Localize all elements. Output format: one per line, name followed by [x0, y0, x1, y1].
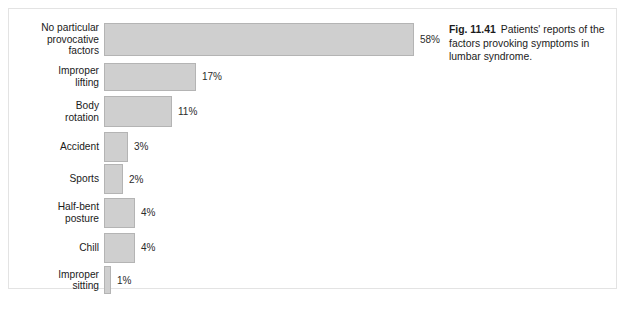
bar-row-plot: 3%: [104, 132, 439, 162]
bar-row-label: Improper lifting: [9, 65, 104, 88]
bar-value-label: 1%: [117, 275, 131, 286]
bar: [104, 132, 128, 162]
bar-row-plot: 17%: [104, 63, 439, 91]
bar: [104, 96, 172, 127]
bar: [104, 266, 111, 294]
bar-row-label: Sports: [9, 173, 104, 184]
bar-value-label: 4%: [141, 207, 155, 218]
bar: [104, 23, 414, 56]
figure-number: Fig. 11.41: [449, 24, 496, 35]
figure-page: No particular provocative factors58%Impr…: [0, 0, 642, 309]
bar: [104, 164, 123, 194]
bar: [104, 233, 135, 263]
bar-value-label: 4%: [141, 242, 155, 253]
bar-row: Improper sitting1%: [9, 265, 439, 295]
bar-row: Sports2%: [9, 163, 439, 195]
bar: [104, 63, 196, 91]
bar-row-label: Chill: [9, 242, 104, 253]
bar-value-label: 17%: [202, 71, 222, 82]
bar-row-label: No particular provocative factors: [9, 22, 104, 56]
bar-row-label: Body rotation: [9, 100, 104, 123]
bar-row: Accident3%: [9, 130, 439, 163]
figure-caption: Fig. 11.41Patients' reports of the facto…: [449, 23, 621, 64]
bar-row: Improper lifting17%: [9, 60, 439, 93]
bar-chart: No particular provocative factors58%Impr…: [9, 13, 439, 288]
bar-row-plot: 1%: [104, 266, 439, 294]
bar-row-plot: 4%: [104, 233, 439, 263]
bar-value-label: 58%: [420, 34, 440, 45]
bar-row-plot: 4%: [104, 198, 439, 228]
bar-row-label: Accident: [9, 141, 104, 152]
bar-row: Chill4%: [9, 230, 439, 265]
bar-value-label: 11%: [178, 106, 197, 117]
figure-frame: No particular provocative factors58%Impr…: [8, 8, 617, 289]
bar-row-plot: 11%: [104, 96, 439, 127]
bar-chart-rows: No particular provocative factors58%Impr…: [9, 19, 439, 295]
bar-row-label: Half-bent posture: [9, 201, 104, 224]
bar-row-plot: 2%: [104, 164, 439, 194]
bar-row: Body rotation11%: [9, 93, 439, 130]
bar-row: No particular provocative factors58%: [9, 19, 439, 60]
bar-row: Half-bent posture4%: [9, 195, 439, 230]
bar-row-plot: 58%: [104, 23, 440, 56]
bar-value-label: 2%: [129, 174, 143, 185]
bar-row-label: Improper sitting: [9, 269, 104, 292]
bar-value-label: 3%: [134, 141, 148, 152]
bar: [104, 198, 135, 228]
